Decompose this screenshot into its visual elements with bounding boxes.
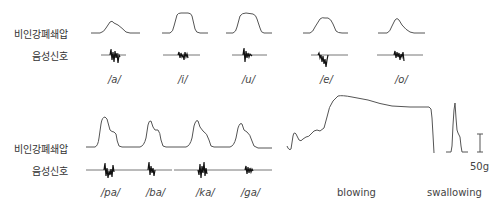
phoneme-i: /i/ [178,74,188,85]
phoneme-o: /o/ [395,74,408,85]
pressure-trace-i [162,13,208,33]
phoneme-u: /u/ [242,74,255,85]
phoneme-a: /a/ [108,74,121,85]
caption-swallowing: swallowing [427,187,482,198]
phoneme-ba: /ba/ [146,187,165,198]
scale-bar [477,134,483,152]
speech-signal-i [163,52,200,60]
blowing-trace [287,96,434,153]
pressure-trace-consonants [86,117,272,148]
pressure-trace-a [91,21,140,33]
pressure-trace-o [378,19,425,34]
speech-signal-consonants [86,162,272,178]
pressure-label-top: 비인강폐쇄압 [0,26,68,41]
waveform-canvas [0,0,502,216]
signal-label-top: 음성신호 [0,48,68,63]
speech-signal-e [311,53,348,67]
swallowing-trace [446,103,468,152]
phoneme-ka: /ka/ [196,187,215,198]
phoneme-e: /e/ [320,74,333,85]
scale-bar-label: 50g [470,161,489,172]
speech-signal-a [101,49,126,63]
phoneme-ga: /ga/ [241,187,260,198]
speech-signal-o [377,51,423,61]
caption-blowing: blowing [337,187,376,198]
pressure-label-bottom: 비인강폐쇄압 [0,141,68,156]
signal-label-bottom: 음성신호 [0,163,68,178]
phoneme-pa: /pa/ [101,187,120,198]
pressure-trace-e [303,18,348,33]
pressure-trace-u [226,13,272,33]
speech-signal-u [232,48,267,62]
